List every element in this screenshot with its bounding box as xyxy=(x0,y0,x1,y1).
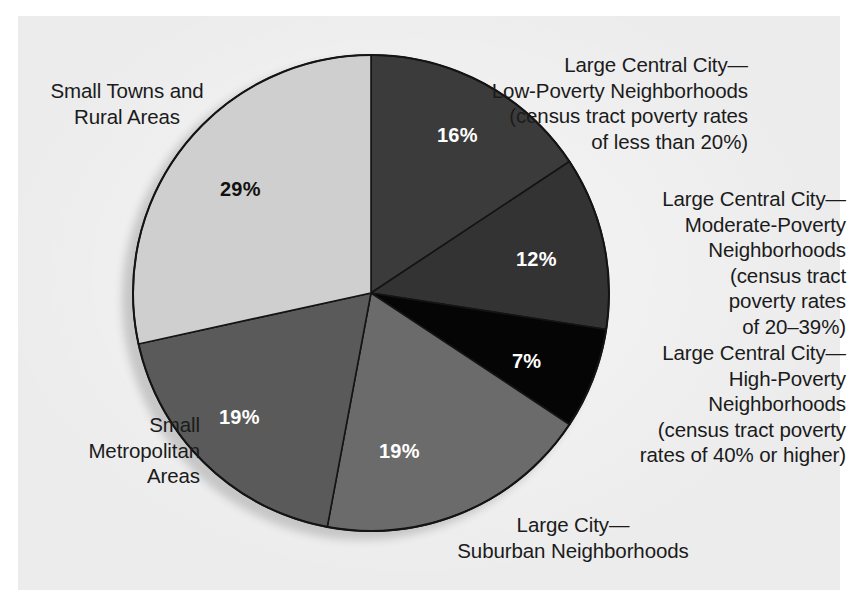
callout-large-central-city-high-poverty: Large Central City— High-Poverty Neighbo… xyxy=(570,340,846,468)
slice-value-small-metro: 19% xyxy=(219,406,260,429)
callout-small-metropolitan-areas: Small Metropolitan Areas xyxy=(24,412,200,489)
slice-value-moderate-poverty: 12% xyxy=(516,248,557,271)
slice-value-suburban: 19% xyxy=(379,440,420,463)
callout-large-central-city-low-poverty: Large Central City— Low-Poverty Neighbor… xyxy=(452,52,748,154)
callout-small-towns-and-rural-areas: Small Towns and Rural Areas xyxy=(14,78,240,129)
slice-value-small-towns: 29% xyxy=(220,178,261,201)
slice-value-high-poverty: 7% xyxy=(512,350,541,373)
pie-chart-figure: 16% 12% 7% 19% 19% 29% Large Central Cit… xyxy=(0,0,858,616)
callout-large-central-city-moderate-poverty: Large Central City— Moderate-Poverty Nei… xyxy=(596,186,846,339)
callout-large-city-suburban: Large City— Suburban Neighborhoods xyxy=(404,512,742,563)
